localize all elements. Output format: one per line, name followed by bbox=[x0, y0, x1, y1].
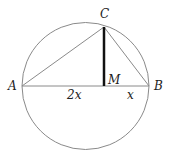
label-A: A bbox=[7, 79, 17, 93]
label-M: M bbox=[107, 73, 121, 87]
label-C: C bbox=[100, 7, 109, 21]
label-B: B bbox=[153, 79, 163, 93]
label-AM-length: 2x bbox=[66, 88, 82, 102]
label-MB-length: x bbox=[127, 88, 134, 102]
segment-AC bbox=[22, 27, 104, 86]
geometry-diagram: C A B M 2x x bbox=[0, 0, 176, 161]
